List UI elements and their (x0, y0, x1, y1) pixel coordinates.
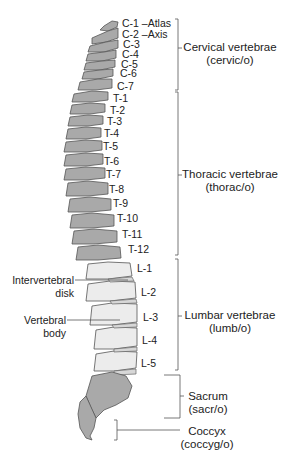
vertebra-l1 (86, 262, 132, 279)
label-c7: C-7 (117, 80, 134, 92)
label-l2: L-2 (141, 286, 156, 298)
vertebra-t12 (76, 245, 121, 260)
label-l3: L-3 (143, 311, 158, 323)
vertebra-t9 (68, 197, 111, 212)
vertebra-t11 (72, 229, 117, 244)
region-cervical-name: Cervical vertebrae (181, 41, 279, 54)
label-t9: T-9 (113, 197, 128, 209)
lumbar-bracket (175, 259, 178, 370)
region-thoracic-root: (thorac/o) (181, 181, 279, 194)
vertebra-t10 (70, 213, 114, 228)
coccyx-bracket (114, 420, 117, 440)
label-t3: T-3 (107, 115, 122, 127)
label-t12: T-12 (128, 243, 149, 255)
vertebra-t1 (72, 91, 108, 102)
label-body-line2: body (2, 327, 66, 340)
label-t7: T-7 (106, 168, 121, 180)
region-coccyx-name: Coccyx (177, 425, 237, 438)
vertebra-c5 (84, 60, 115, 70)
label-t11: T-11 (122, 228, 142, 240)
sacrum-bracket (164, 375, 180, 418)
region-thoracic-name: Thoracic vertebrae (181, 168, 279, 181)
label-disk-line1: Intervertebral (2, 274, 74, 287)
cervical-bracket (175, 19, 178, 90)
vertebra-t8 (66, 181, 108, 196)
label-t4: T-4 (104, 127, 119, 139)
vertebra-c6 (82, 69, 113, 79)
label-c6: C-6 (120, 67, 137, 79)
vertebra-l3 (90, 303, 137, 325)
label-t5: T-5 (103, 140, 118, 152)
label-vertebral-body: Vertebral body (2, 314, 66, 340)
vertebra-t6 (64, 153, 103, 166)
region-sacrum: Sacrum (sacr/o) (183, 390, 233, 416)
label-t1: T-1 (113, 92, 128, 104)
label-disk-line2: disk (2, 287, 74, 300)
region-lumbar-name: Lumbar vertebrae (181, 309, 279, 322)
vertebra-t7 (64, 167, 105, 180)
vertebra-l5 (94, 351, 137, 371)
vertebra-t4 (66, 127, 101, 139)
cervical-vertebrae (78, 21, 118, 90)
vertebra-c7 (78, 79, 112, 90)
region-coccyx: Coccyx (coccyg/o) (177, 425, 237, 451)
vertebra-l2 (86, 281, 136, 301)
thoracic-bracket (175, 92, 178, 255)
vertebra-t2 (70, 103, 105, 114)
vertebra-t3 (68, 115, 103, 126)
region-lumbar-root: (lumb/o) (181, 322, 279, 335)
region-sacrum-root: (sacr/o) (183, 403, 233, 416)
vertebra-l4 (94, 327, 137, 349)
region-coccyx-root: (coccyg/o) (177, 438, 237, 451)
region-sacrum-name: Sacrum (183, 390, 233, 403)
vertebra-t5 (64, 140, 102, 152)
label-l1: L-1 (137, 262, 152, 274)
region-lumbar: Lumbar vertebrae (lumb/o) (181, 309, 279, 335)
label-l4: L-4 (142, 334, 157, 346)
region-thoracic: Thoracic vertebrae (thorac/o) (181, 168, 279, 194)
label-intervertebral-disk: Intervertebral disk (2, 274, 74, 300)
label-body-line1: Vertebral (2, 314, 66, 327)
label-t10: T-10 (117, 212, 138, 224)
label-l5: L-5 (141, 357, 156, 369)
label-t8: T-8 (109, 183, 124, 195)
region-cervical: Cervical vertebrae (cervic/o) (181, 41, 279, 67)
region-cervical-root: (cervic/o) (181, 54, 279, 67)
label-t6: T-6 (104, 155, 119, 167)
